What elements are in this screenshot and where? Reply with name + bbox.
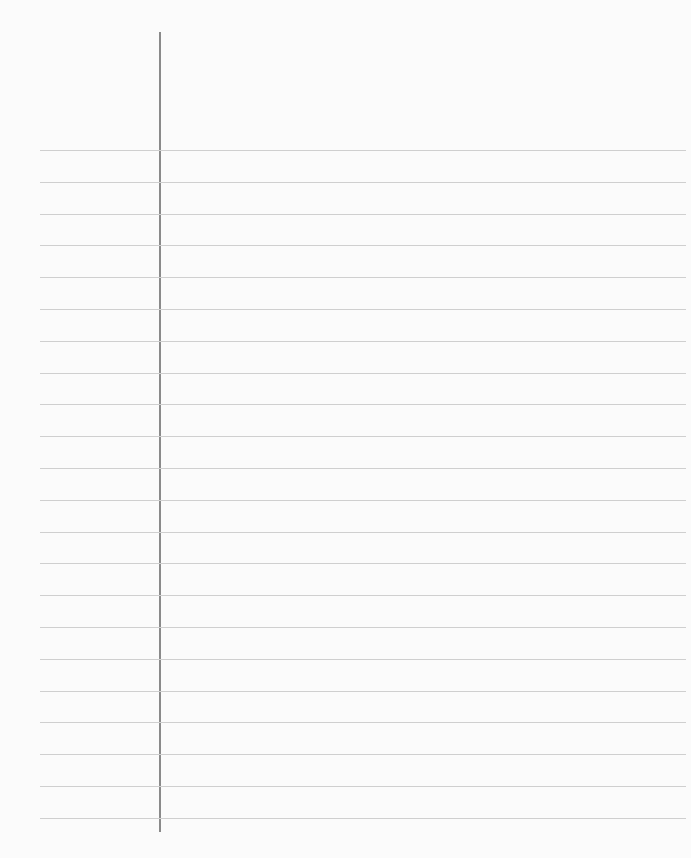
ruled-line [40,404,686,405]
ruled-line [40,691,686,692]
ruled-line [40,754,686,755]
ruled-line [40,563,686,564]
ruled-line [40,786,686,787]
lined-paper [0,0,691,858]
ruled-line [40,373,686,374]
ruled-line [40,341,686,342]
ruled-line [40,532,686,533]
ruled-line [40,627,686,628]
ruled-line [40,500,686,501]
ruled-line [40,277,686,278]
ruled-line [40,150,686,151]
ruled-line [40,595,686,596]
margin-line [159,32,161,832]
ruled-line [40,659,686,660]
ruled-line [40,468,686,469]
ruled-line [40,722,686,723]
ruled-line [40,309,686,310]
ruled-line [40,818,686,819]
ruled-line [40,214,686,215]
ruled-line [40,436,686,437]
ruled-line [40,245,686,246]
ruled-line [40,182,686,183]
